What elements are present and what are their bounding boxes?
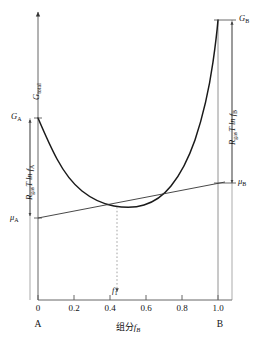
- left-gap-r: R: [24, 195, 34, 200]
- g-b-sub: B: [245, 18, 249, 24]
- y-axis-title-sub: total: [36, 83, 42, 94]
- x-tick-0-6: 0.6: [140, 304, 151, 313]
- endpoint-label-b: B: [217, 320, 223, 330]
- mu-a-label: μA: [10, 213, 19, 222]
- y-axis-title-main: G: [31, 94, 41, 100]
- g-b-label: GB: [239, 14, 249, 23]
- x-axis-ticks: [38, 295, 218, 300]
- x-tick-0-2: 0.2: [68, 304, 79, 313]
- x-axis-title-cn: 组分: [116, 322, 134, 332]
- common-tangent-line: [38, 182, 225, 218]
- y-axis-title: Gtotal: [32, 83, 41, 100]
- x-tick-0-8: 0.8: [176, 304, 187, 313]
- left-gap-tail-sub: A: [29, 165, 35, 169]
- mu-b-label: μB: [238, 177, 246, 186]
- left-gap-tail: T ln f: [24, 169, 34, 187]
- mu-a-sub: A: [14, 217, 18, 223]
- right-gap-tail: T ln f: [227, 114, 237, 132]
- x-axis-title-sub: B: [136, 326, 140, 333]
- x-tick-0: 0: [36, 304, 41, 313]
- free-energy-curve: [38, 20, 218, 207]
- f1-sub: 1: [114, 290, 117, 296]
- right-gap-tail-sub: B: [232, 110, 238, 114]
- x-axis-title: 组分fB: [116, 323, 141, 332]
- right-gap-r: R: [227, 140, 237, 145]
- right-gap-annotation: RgasT ln fB: [228, 110, 237, 145]
- g-a-sub: A: [17, 116, 21, 122]
- level-ticks: [34, 20, 236, 218]
- x-tick-0-4: 0.4: [104, 304, 115, 313]
- right-gap-gas: gas: [232, 132, 238, 140]
- gibbs-free-energy-diagram: Gtotal GA GB μA μB RgasT ln fA RgasT ln …: [0, 0, 256, 347]
- f1-label: f1: [112, 286, 117, 295]
- left-gap-gas: gas: [29, 187, 35, 195]
- mu-b-sub: B: [242, 181, 246, 187]
- x-tick-1-0: 1.0: [212, 304, 223, 313]
- plot-canvas: [0, 0, 256, 347]
- endpoint-label-a: A: [35, 320, 42, 330]
- g-a-label: GA: [11, 112, 21, 121]
- left-gap-annotation: RgasT ln fA: [25, 165, 34, 200]
